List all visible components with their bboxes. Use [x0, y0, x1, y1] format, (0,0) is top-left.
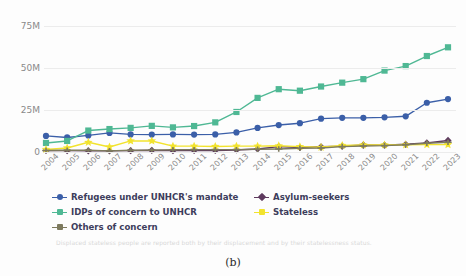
x-tick-label: 2007 — [103, 152, 124, 173]
x-tick-label: 2008 — [124, 152, 145, 173]
legend-marker-icon — [52, 193, 67, 202]
data-point — [170, 131, 176, 137]
legend-item[interactable]: Stateless — [254, 207, 318, 217]
data-point — [297, 88, 303, 94]
x-tick-label: 2006 — [82, 152, 103, 173]
x-tick-label: 2016 — [294, 152, 315, 173]
data-point — [381, 114, 387, 120]
data-point — [85, 127, 91, 133]
data-point — [318, 83, 324, 89]
x-tick-label: 2010 — [167, 152, 188, 173]
data-point — [360, 76, 366, 82]
data-point — [170, 124, 176, 130]
data-point — [84, 138, 93, 146]
legend-marker-icon — [52, 208, 67, 217]
x-tick-label: 2023 — [442, 152, 463, 173]
data-point — [254, 125, 260, 131]
series-line — [46, 47, 448, 143]
x-tick-label: 2004 — [40, 152, 61, 173]
gridline — [44, 68, 456, 69]
data-point — [403, 113, 409, 119]
data-point — [318, 116, 324, 122]
x-tick-label: 2018 — [336, 152, 357, 173]
figure-panel: 025M50M75M 20042005200620072008200920102… — [0, 0, 466, 276]
data-point — [424, 53, 430, 59]
legend-label: Refugees under UNHCR's mandate — [71, 192, 238, 202]
x-axis: 2004200520062007200820092010201120122013… — [44, 154, 456, 184]
data-point — [191, 131, 197, 137]
gridline — [44, 110, 456, 111]
data-point — [402, 142, 409, 148]
x-tick-label: 2022 — [420, 152, 441, 173]
legend-item[interactable]: IDPs of concern to UNHCR — [52, 207, 197, 217]
figure-caption: (b) — [0, 256, 466, 269]
plot-area — [44, 18, 456, 152]
legend-item[interactable]: Refugees under UNHCR's mandate — [52, 192, 238, 202]
y-axis: 025M50M75M — [0, 18, 40, 152]
series-layer — [44, 18, 456, 152]
data-point — [191, 123, 197, 129]
y-tick-label: 50M — [21, 63, 40, 73]
x-tick-label: 2009 — [145, 152, 166, 173]
data-point — [149, 123, 155, 129]
data-point — [297, 120, 303, 126]
data-point — [126, 136, 135, 144]
series-1 — [43, 96, 451, 141]
legend-marker-icon — [254, 208, 269, 217]
x-tick-label: 2012 — [209, 152, 230, 173]
data-point — [445, 44, 451, 50]
legend-label: Stateless — [273, 207, 318, 217]
y-tick-label: 25M — [21, 105, 40, 115]
legend-label: IDPs of concern to UNHCR — [71, 207, 197, 217]
data-point — [43, 133, 49, 139]
y-tick-label: 0 — [34, 147, 40, 157]
x-tick-label: 2020 — [378, 152, 399, 173]
data-point — [212, 119, 218, 125]
data-point — [64, 138, 70, 144]
legend-item[interactable]: Others of concern — [52, 222, 158, 232]
legend-marker-icon — [52, 223, 67, 232]
legend-label: Others of concern — [71, 222, 158, 232]
y-tick-label: 75M — [21, 21, 40, 31]
legend-item[interactable]: Asylum-seekers — [254, 192, 349, 202]
data-point — [276, 86, 282, 92]
x-tick-label: 2017 — [315, 152, 336, 173]
footnote: Displaced stateless people are reported … — [56, 239, 446, 246]
x-tick-label: 2011 — [188, 152, 209, 173]
data-point — [254, 95, 260, 101]
data-point — [424, 100, 430, 106]
x-tick-label: 2014 — [251, 152, 272, 173]
gridline — [44, 26, 456, 27]
x-tick-label: 2019 — [357, 152, 378, 173]
data-point — [148, 136, 157, 144]
legend-label: Asylum-seekers — [273, 192, 349, 202]
data-point — [339, 80, 345, 86]
data-point — [360, 115, 366, 121]
data-point — [212, 131, 218, 137]
x-tick-label: 2021 — [399, 152, 420, 173]
data-point — [128, 125, 134, 131]
x-tick-label: 2005 — [61, 152, 82, 173]
x-tick-label: 2015 — [272, 152, 293, 173]
data-point — [339, 115, 345, 121]
data-point — [106, 126, 112, 132]
legend-marker-icon — [254, 193, 269, 202]
x-tick-label: 2013 — [230, 152, 251, 173]
data-point — [445, 96, 451, 102]
data-point — [233, 129, 239, 135]
legend: Refugees under UNHCR's mandateAsylum-see… — [52, 192, 452, 236]
data-point — [276, 122, 282, 128]
